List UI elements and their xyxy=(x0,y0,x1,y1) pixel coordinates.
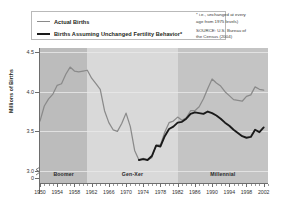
x-tick-label: 2002 xyxy=(254,189,274,195)
x-tick-minor xyxy=(44,184,45,186)
footnote-line-2: age from 1975 levels) xyxy=(196,19,276,26)
series-line-births-assuming-unchanged-fertility-behavior xyxy=(139,112,264,160)
x-tick-minor xyxy=(208,184,209,186)
legend-swatch-actual-births xyxy=(37,21,50,22)
x-tick-major xyxy=(92,184,93,187)
x-tick-minor xyxy=(169,184,170,186)
y-tick xyxy=(35,92,39,93)
legend-label-unchanged-fertility: Births Assuming Unchanged Fertility Beha… xyxy=(54,31,182,37)
x-tick-minor xyxy=(113,184,114,186)
x-tick-major xyxy=(40,184,41,187)
x-tick-minor xyxy=(122,184,123,186)
x-tick-minor xyxy=(156,184,157,186)
x-tick-minor xyxy=(225,184,226,186)
legend-label-actual-births: Actual Births xyxy=(54,19,89,25)
axis-break-icon xyxy=(35,166,44,176)
series-line-actual-births xyxy=(40,67,264,160)
source-line-2: the Census (2004) xyxy=(196,34,276,41)
x-tick-major xyxy=(109,184,110,187)
x-tick-major xyxy=(264,184,265,187)
x-tick-minor xyxy=(152,184,153,186)
x-tick-minor xyxy=(139,184,140,186)
x-tick-minor xyxy=(242,184,243,186)
x-tick-minor xyxy=(173,184,174,186)
x-tick-minor xyxy=(100,184,101,186)
x-tick-minor xyxy=(191,184,192,186)
x-tick-minor xyxy=(221,184,222,186)
y-tick-label: 0 xyxy=(20,175,34,181)
y-axis-label: Millions of Births xyxy=(8,61,14,121)
plot-area: BoomerGen-XerMillennial xyxy=(40,48,268,183)
x-tick-minor xyxy=(259,184,260,186)
y-tick-label: 4.5 xyxy=(20,49,34,55)
y-tick-label: 3.0 xyxy=(20,168,34,174)
x-tick-minor xyxy=(148,184,149,186)
x-tick-minor xyxy=(130,184,131,186)
x-tick-major xyxy=(143,184,144,187)
x-tick-minor xyxy=(199,184,200,186)
x-tick-minor xyxy=(238,184,239,186)
x-tick-minor xyxy=(62,184,63,186)
y-tick-label: 4.0 xyxy=(20,89,34,95)
chart-figure: Actual Births Births Assuming Unchanged … xyxy=(0,0,283,217)
x-tick-minor xyxy=(49,184,50,186)
legend-swatch-unchanged-fertility xyxy=(37,33,50,35)
series-lines xyxy=(40,48,268,183)
x-tick-minor xyxy=(117,184,118,186)
x-tick-major xyxy=(160,184,161,187)
x-tick-minor xyxy=(83,184,84,186)
x-tick-minor xyxy=(234,184,235,186)
x-tick-minor xyxy=(87,184,88,186)
x-tick-major xyxy=(178,184,179,187)
x-tick-minor xyxy=(255,184,256,186)
footnote-line-1: * i.e., unchanged at every xyxy=(196,12,276,19)
x-tick-major xyxy=(246,184,247,187)
source-line-1: SOURCE: U.S. Bureau of xyxy=(196,28,276,35)
y-tick xyxy=(35,52,39,53)
x-tick-minor xyxy=(186,184,187,186)
x-tick-minor xyxy=(105,184,106,186)
x-tick-major xyxy=(212,184,213,187)
x-tick-minor xyxy=(216,184,217,186)
y-tick-label: 3.5 xyxy=(20,128,34,134)
x-tick-major xyxy=(195,184,196,187)
x-tick-major xyxy=(126,184,127,187)
legend-item-actual-births: Actual Births xyxy=(37,16,220,27)
x-tick-minor xyxy=(135,184,136,186)
x-tick-minor xyxy=(70,184,71,186)
x-tick-minor xyxy=(79,184,80,186)
x-tick-minor xyxy=(203,184,204,186)
x-tick-minor xyxy=(66,184,67,186)
x-tick-minor xyxy=(96,184,97,186)
x-tick-major xyxy=(57,184,58,187)
x-tick-minor xyxy=(182,184,183,186)
source-note: * i.e., unchanged at every age from 1975… xyxy=(196,12,276,41)
x-tick-major xyxy=(74,184,75,187)
legend-item-unchanged-fertility: Births Assuming Unchanged Fertility Beha… xyxy=(37,28,220,39)
x-tick-minor xyxy=(251,184,252,186)
x-tick-minor xyxy=(53,184,54,186)
y-tick xyxy=(35,131,39,132)
y-tick xyxy=(35,178,39,179)
x-tick-minor xyxy=(268,184,269,186)
x-tick-major xyxy=(229,184,230,187)
x-tick-minor xyxy=(165,184,166,186)
